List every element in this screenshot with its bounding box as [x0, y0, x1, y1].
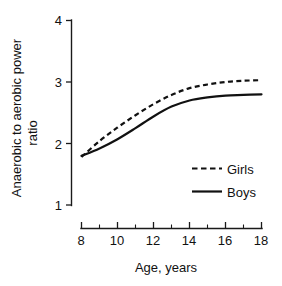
line-chart: 4 3 2 1 Anaerobic to aerobic power ratio [0, 0, 282, 286]
series-line-girls [82, 80, 262, 157]
y-tick-label-2: 2 [55, 137, 62, 152]
x-tick-label-8: 8 [77, 233, 84, 248]
x-tick-label-18: 18 [254, 233, 268, 248]
x-tick-label-14: 14 [182, 233, 196, 248]
plot-series-group [82, 80, 262, 157]
legend-label-girls: Girls [227, 162, 254, 177]
legend-label-boys: Boys [227, 185, 256, 200]
y-tick-label-4: 4 [55, 13, 62, 28]
y-tick-label-3: 3 [55, 75, 62, 90]
y-axis-title: Anaerobic to aerobic power ratio [9, 38, 40, 197]
y-axis-title-line2: ratio [25, 120, 40, 145]
chart-figure: 4 3 2 1 Anaerobic to aerobic power ratio [0, 0, 282, 286]
legend: Girls Boys [192, 162, 256, 200]
series-line-boys [82, 94, 262, 156]
x-tick-label-10: 10 [110, 233, 124, 248]
x-axis-title: Age, years [135, 260, 198, 275]
x-tick-label-16: 16 [218, 233, 232, 248]
y-axis-title-line1: Anaerobic to aerobic power [9, 38, 24, 197]
x-tick-label-12: 12 [146, 233, 160, 248]
y-axis: 4 3 2 1 [55, 13, 72, 213]
x-axis: 8 10 12 14 16 18 [77, 222, 268, 248]
y-tick-label-1: 1 [55, 198, 62, 213]
